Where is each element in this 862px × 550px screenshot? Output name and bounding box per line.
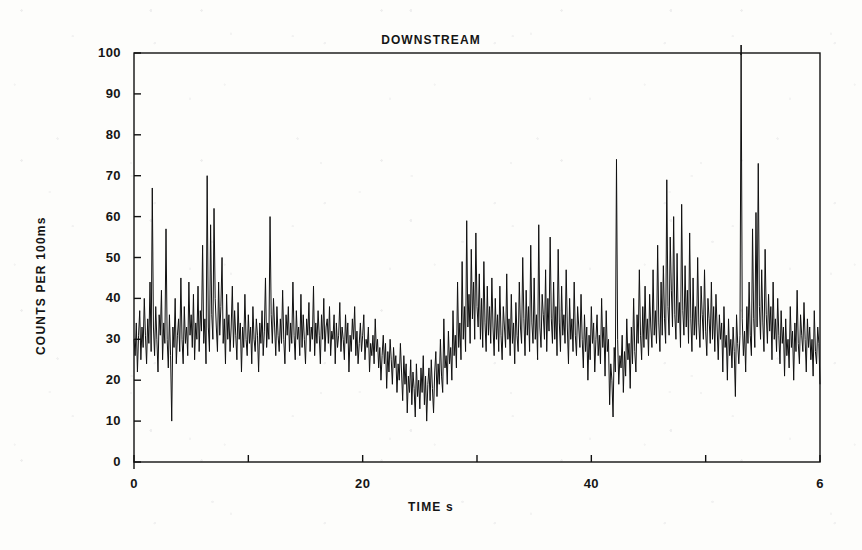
y-tick-label: 10 bbox=[0, 413, 121, 428]
data-line-path bbox=[134, 53, 820, 421]
y-tick-label: 70 bbox=[0, 168, 121, 183]
tick-marks bbox=[134, 53, 820, 469]
y-tick-label: 50 bbox=[0, 250, 121, 265]
x-tick-label: 40 bbox=[571, 476, 611, 491]
x-tick-label: 20 bbox=[343, 476, 383, 491]
plot-area bbox=[0, 0, 862, 550]
x-tick-label: 0 bbox=[114, 476, 154, 491]
y-tick-label: 20 bbox=[0, 372, 121, 387]
axis-frame bbox=[134, 53, 820, 462]
y-tick-label: 90 bbox=[0, 86, 121, 101]
x-tick-label: 6 bbox=[800, 476, 840, 491]
y-tick-label: 40 bbox=[0, 290, 121, 305]
y-tick-label: 80 bbox=[0, 127, 121, 142]
y-tick-label: 0 bbox=[0, 454, 121, 469]
y-tick-label: 30 bbox=[0, 331, 121, 346]
y-tick-label: 100 bbox=[0, 45, 121, 60]
data-series-downstream bbox=[134, 45, 820, 421]
chart-figure: DOWNSTREAM COUNTS PER 100ms TIME s 01020… bbox=[0, 0, 862, 550]
y-tick-label: 60 bbox=[0, 209, 121, 224]
